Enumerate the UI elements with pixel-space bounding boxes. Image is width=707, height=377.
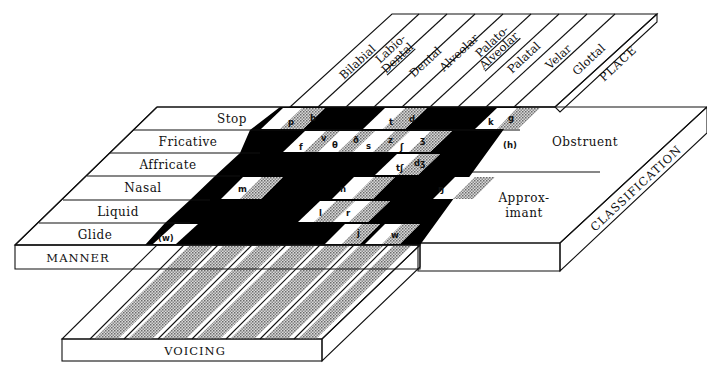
symbol-n: n [340,184,346,194]
symbol-tsh: tʃ [396,163,404,173]
manner-board: Stop Fricative Affricate Nasal Liquid Gl… [15,107,555,269]
symbol-dzh: dʒ [414,158,426,168]
symbol-b: b [310,113,316,123]
row-label-nasal: Nasal [124,181,161,195]
group-label-approximant-2: imant [505,206,542,220]
column-label-bilabial: Bilabial [336,42,378,83]
row-label-affricate: Affricate [138,158,196,172]
symbol-l: l [319,208,322,218]
row-label-fricative: Fricative [159,135,218,149]
voicing-axis-label: VOICING [163,344,226,358]
symbol-eth: ð [353,135,359,145]
voicing-board: VOICING [62,245,420,361]
row-label-liquid: Liquid [97,205,139,219]
consonant-classification-diagram: Bilabial Labio- Dental Dental Alveolar P… [0,0,707,377]
row-label-glide: Glide [78,228,113,242]
symbol-k: k [488,117,494,127]
symbol-h: (h) [503,140,517,150]
symbol-esh: ʃ [399,142,404,152]
symbol-w: w [391,230,399,240]
symbol-d: d [409,114,415,124]
symbol-g: g [508,113,514,123]
symbol-s: s [366,141,371,151]
symbol-w-parenthesized: (w) [158,233,174,243]
symbol-j: j [356,228,360,238]
classification-axis-label: CLASSIFICATION [587,142,684,234]
symbol-m: m [238,184,247,194]
symbol-z: z [388,135,393,145]
symbol-v: v [321,133,327,143]
symbol-p: p [288,117,294,127]
symbol-t: t [389,117,393,127]
row-label-stop: Stop [217,112,247,126]
group-label-approximant-1: Approx- [497,191,549,205]
symbol-f: f [299,142,303,152]
manner-axis-label: MANNER [46,251,109,265]
symbol-ezh: ʒ [420,135,426,145]
symbol-eng: ŋ [438,184,444,194]
place-board: Bilabial Labio- Dental Dental Alveolar P… [290,14,657,112]
group-label-obstruent: Obstruent [552,135,618,149]
symbol-theta: θ [332,140,338,150]
